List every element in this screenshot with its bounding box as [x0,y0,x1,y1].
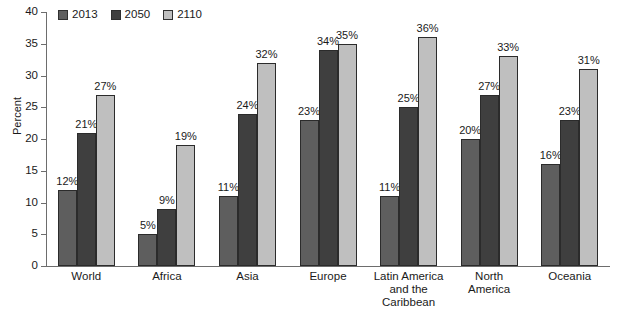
bar-rect[interactable] [541,164,560,266]
bar-rect[interactable] [319,50,338,266]
bar-2050-Africa[interactable]: 9% [157,209,176,266]
bar-rect[interactable] [300,120,319,266]
y-tick-label: 15 [12,164,38,176]
bar-2110-North America[interactable]: 33% [499,56,518,266]
bar-2013-Oceania[interactable]: 16% [541,164,560,266]
bar-2110-World[interactable]: 27% [96,95,115,266]
bar-value-label: 23% [298,106,320,117]
bar-value-label: 12% [56,176,78,187]
y-tick [41,234,46,235]
bar-group: 12%21%27%World [58,12,115,266]
bar-rect[interactable] [399,107,418,266]
bar-value-label: 9% [159,195,175,206]
bar-2110-Europe[interactable]: 35% [338,44,357,266]
bar-rect[interactable] [58,190,77,266]
y-tick-label: 30 [12,69,38,81]
bar-2110-Latin America and the Caribbean[interactable]: 36% [418,37,437,266]
bar-2013-World[interactable]: 12% [58,190,77,266]
y-tick-label: 10 [12,196,38,208]
bar-2013-Europe[interactable]: 23% [300,120,319,266]
bar-group: 5%9%19%Africa [138,12,195,266]
bar-rect[interactable] [96,95,115,266]
bar-2110-Oceania[interactable]: 31% [579,69,598,266]
bar-2050-Europe[interactable]: 34% [319,50,338,266]
bar-2110-Asia[interactable]: 32% [257,63,276,266]
y-tick [41,12,46,13]
bar-value-label: 20% [459,125,481,136]
y-tick-label: 40 [12,5,38,17]
bar-value-label: 11% [218,182,239,193]
x-axis-line [46,266,610,267]
bar-rect[interactable] [579,69,598,266]
bar-rect[interactable] [560,120,579,266]
y-tick-label: 5 [12,227,38,239]
bar-value-label: 31% [578,55,600,66]
x-category-label-line: Caribbean [354,296,464,309]
bar-2050-World[interactable]: 21% [77,133,96,266]
bar-chart: 201320502110 Percent 0510152025303540 12… [0,0,624,314]
y-tick [41,139,46,140]
bar-rect[interactable] [461,139,480,266]
bar-group-bars: 20%27%33% [461,56,518,266]
bar-value-label: 33% [497,42,519,53]
bar-2110-Africa[interactable]: 19% [176,145,195,266]
y-tick-label: 25 [12,100,38,112]
y-tick-label: 20 [12,132,38,144]
y-tick-label: 35 [12,37,38,49]
bar-value-label: 23% [559,106,581,117]
bar-rect[interactable] [257,63,276,266]
bar-group: 20%27%33%NorthAmerica [461,12,518,266]
y-tick [41,203,46,204]
y-tick [41,76,46,77]
bar-value-label: 35% [336,30,358,41]
bar-rect[interactable] [176,145,195,266]
bar-group: 16%23%31%Oceania [541,12,598,266]
bar-group-bars: 12%21%27% [58,95,115,266]
x-category-label: Oceania [515,270,624,283]
bar-rect[interactable] [238,114,257,266]
bar-2013-North America[interactable]: 20% [461,139,480,266]
bar-rect[interactable] [338,44,357,266]
bar-group-bars: 11%24%32% [219,63,276,266]
bar-group-bars: 5%9%19% [138,145,195,266]
bar-2050-Latin America and the Caribbean[interactable]: 25% [399,107,418,266]
bar-rect[interactable] [480,95,499,266]
bar-value-label: 5% [140,220,156,231]
bar-value-label: 19% [175,131,197,142]
bar-value-label: 11% [379,182,400,193]
bar-rect[interactable] [219,196,238,266]
y-tick [41,107,46,108]
bar-rect[interactable] [138,234,157,266]
bar-rect[interactable] [499,56,518,266]
bar-2013-Africa[interactable]: 5% [138,234,157,266]
bar-value-label: 25% [398,93,420,104]
bar-2050-North America[interactable]: 27% [480,95,499,266]
bar-2050-Asia[interactable]: 24% [238,114,257,266]
bar-group: 23%34%35%Europe [300,12,357,266]
bar-value-label: 21% [75,119,97,130]
bar-value-label: 16% [540,150,562,161]
y-axis-line [46,12,47,266]
bar-value-label: 27% [478,81,500,92]
bar-value-label: 27% [94,81,116,92]
x-category-label-line: Oceania [515,270,624,283]
y-tick [41,266,46,267]
bar-group: 11%25%36%Latin Americaand theCaribbean [380,12,437,266]
bar-value-label: 36% [417,23,439,34]
bar-group-bars: 23%34%35% [300,44,357,266]
bar-rect[interactable] [418,37,437,266]
x-category-label-line: America [434,283,544,296]
bar-group-bars: 16%23%31% [541,69,598,266]
y-tick [41,171,46,172]
bar-rect[interactable] [77,133,96,266]
bar-rect[interactable] [380,196,399,266]
bar-value-label: 24% [236,100,258,111]
bar-group-bars: 11%25%36% [380,37,437,266]
bar-value-label: 32% [255,49,277,60]
bar-2013-Latin America and the Caribbean[interactable]: 11% [380,196,399,266]
y-tick [41,44,46,45]
bar-2013-Asia[interactable]: 11% [219,196,238,266]
bar-rect[interactable] [157,209,176,266]
bar-2050-Oceania[interactable]: 23% [560,120,579,266]
bar-group: 11%24%32%Asia [219,12,276,266]
